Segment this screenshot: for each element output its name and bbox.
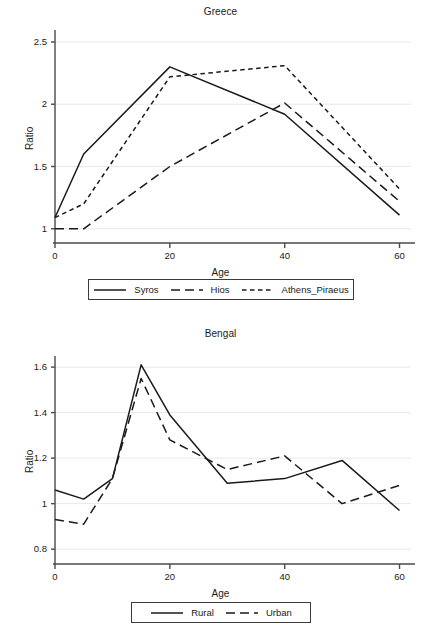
y-tick-label: 1.4 bbox=[7, 407, 47, 418]
legend-swatch-short-dash bbox=[241, 285, 275, 295]
chart-panel-greece: Greece Ratio Age SyrosHiosAthens_Piraeus… bbox=[0, 0, 441, 322]
y-tick-label: 0.8 bbox=[7, 543, 47, 554]
x-tick-label: 40 bbox=[265, 250, 305, 261]
legend-swatch-solid bbox=[150, 608, 184, 618]
series-line-syros bbox=[55, 67, 400, 218]
plot-area-greece bbox=[0, 0, 441, 322]
legend-entry-athens_piraeus: Athens_Piraeus bbox=[241, 284, 349, 295]
series-line-hios bbox=[55, 103, 400, 229]
y-tick-label: 1 bbox=[7, 498, 47, 509]
y-tick-label: 1.2 bbox=[7, 452, 47, 463]
x-tick-label: 20 bbox=[150, 571, 190, 582]
x-tick-label: 40 bbox=[265, 571, 305, 582]
legend-label: Urban bbox=[266, 607, 292, 618]
y-tick-label: 1.5 bbox=[7, 161, 47, 172]
plot-area-bengal bbox=[0, 322, 441, 644]
legend-greece: SyrosHiosAthens_Piraeus bbox=[88, 279, 354, 300]
x-tick-label: 0 bbox=[35, 571, 75, 582]
x-tick-label: 0 bbox=[35, 250, 75, 261]
x-tick-label: 20 bbox=[150, 250, 190, 261]
legend-label: Athens_Piraeus bbox=[282, 284, 349, 295]
x-tick-label: 60 bbox=[380, 250, 420, 261]
figure-page: Greece Ratio Age SyrosHiosAthens_Piraeus… bbox=[0, 0, 441, 644]
series-line-athens_piraeus bbox=[55, 66, 400, 218]
legend-label: Rural bbox=[191, 607, 214, 618]
y-tick-label: 1.6 bbox=[7, 361, 47, 372]
y-tick-label: 2.5 bbox=[7, 36, 47, 47]
legend-bengal: RuralUrban bbox=[131, 602, 311, 623]
legend-entry-urban: Urban bbox=[225, 607, 292, 618]
legend-entry-hios: Hios bbox=[170, 284, 230, 295]
chart-panel-bengal: Bengal Ratio Age RuralUrban 0.811.21.41.… bbox=[0, 322, 441, 644]
legend-swatch-long-dash bbox=[170, 285, 204, 295]
y-tick-label: 2 bbox=[7, 98, 47, 109]
legend-swatch-solid bbox=[93, 285, 127, 295]
x-tick-label: 60 bbox=[380, 571, 420, 582]
y-tick-label: 1 bbox=[7, 223, 47, 234]
legend-entry-rural: Rural bbox=[150, 607, 214, 618]
legend-label: Syros bbox=[134, 284, 158, 295]
legend-label: Hios bbox=[211, 284, 230, 295]
legend-swatch-long-dash bbox=[225, 608, 259, 618]
series-line-urban bbox=[55, 378, 400, 524]
legend-entry-syros: Syros bbox=[93, 284, 158, 295]
